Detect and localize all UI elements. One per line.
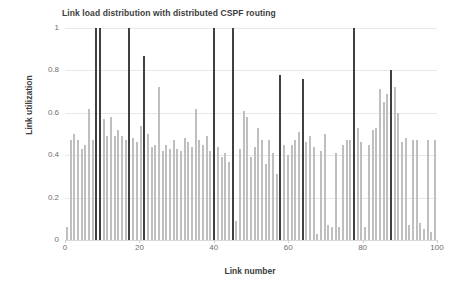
bar-highlight bbox=[95, 28, 97, 240]
bar bbox=[110, 117, 112, 240]
bar bbox=[338, 227, 340, 240]
bar bbox=[309, 136, 311, 240]
bar bbox=[136, 142, 138, 240]
bar bbox=[287, 155, 289, 240]
bar bbox=[294, 140, 296, 240]
x-tick-label: 100 bbox=[422, 243, 452, 252]
gridline bbox=[65, 70, 437, 71]
chart-figure: Link load distribution with distributed … bbox=[0, 0, 476, 289]
bar bbox=[335, 153, 337, 240]
bar bbox=[283, 145, 285, 240]
bar bbox=[360, 142, 362, 240]
x-tick-label: 80 bbox=[348, 243, 378, 252]
bar bbox=[243, 111, 245, 240]
bar bbox=[346, 140, 348, 240]
bar bbox=[383, 102, 385, 240]
x-tick-label: 60 bbox=[273, 243, 303, 252]
x-axis-title: Link number bbox=[62, 266, 438, 276]
bar bbox=[114, 136, 116, 240]
bar bbox=[368, 145, 370, 240]
bar bbox=[106, 136, 108, 240]
bar bbox=[386, 94, 388, 240]
bar bbox=[202, 145, 204, 240]
bar bbox=[66, 227, 68, 240]
bar bbox=[412, 140, 414, 240]
bar bbox=[81, 149, 83, 240]
bar bbox=[173, 140, 175, 240]
bar bbox=[434, 140, 436, 240]
x-axis-tick-labels: 020406080100 bbox=[65, 243, 437, 257]
bar bbox=[180, 151, 182, 240]
bar bbox=[324, 134, 326, 240]
bar bbox=[187, 142, 189, 240]
bar-highlight bbox=[128, 28, 130, 240]
bar bbox=[73, 134, 75, 240]
y-tick-label: 0.8 bbox=[33, 65, 59, 74]
x-tick-label: 0 bbox=[50, 243, 80, 252]
bar bbox=[77, 140, 79, 240]
bar-highlight bbox=[390, 70, 392, 240]
bar bbox=[416, 140, 418, 240]
bar bbox=[195, 109, 197, 240]
bar bbox=[419, 223, 421, 240]
bar bbox=[176, 149, 178, 240]
bar bbox=[272, 153, 274, 240]
bar bbox=[265, 164, 267, 240]
bar bbox=[209, 151, 211, 240]
bar bbox=[121, 136, 123, 240]
gridline bbox=[65, 113, 437, 114]
plot-area bbox=[65, 28, 437, 240]
bar bbox=[405, 138, 407, 240]
bar bbox=[184, 138, 186, 240]
bar bbox=[140, 126, 142, 240]
bar bbox=[375, 128, 377, 240]
bar-highlight bbox=[232, 28, 234, 240]
chart-title: Link load distribution with distributed … bbox=[62, 8, 276, 18]
bar-highlight bbox=[213, 28, 215, 240]
bar bbox=[235, 221, 237, 240]
y-tick-label: 0.4 bbox=[33, 150, 59, 159]
bar bbox=[132, 138, 134, 240]
bar bbox=[276, 174, 278, 240]
bar-highlight bbox=[143, 56, 145, 240]
bar bbox=[320, 151, 322, 240]
bar bbox=[246, 117, 248, 240]
bar bbox=[239, 149, 241, 240]
bar bbox=[349, 140, 351, 240]
bar bbox=[158, 87, 160, 240]
bar bbox=[221, 157, 223, 240]
bar bbox=[165, 145, 167, 240]
bar bbox=[268, 140, 270, 240]
x-tick-label: 20 bbox=[124, 243, 154, 252]
bar bbox=[408, 225, 410, 240]
bar bbox=[401, 142, 403, 240]
bar bbox=[397, 113, 399, 240]
bar bbox=[117, 130, 119, 240]
y-tick-label: 0.2 bbox=[33, 193, 59, 202]
bar bbox=[88, 109, 90, 240]
bar bbox=[151, 147, 153, 240]
bar-highlight bbox=[279, 75, 281, 240]
bar bbox=[261, 140, 263, 240]
bar bbox=[427, 140, 429, 240]
bar bbox=[357, 128, 359, 240]
bar bbox=[154, 145, 156, 240]
bar bbox=[103, 119, 105, 240]
bar-highlight bbox=[353, 28, 355, 240]
bar bbox=[70, 140, 72, 240]
bar bbox=[305, 142, 307, 240]
bar bbox=[224, 153, 226, 240]
y-tick-label: 1 bbox=[33, 23, 59, 32]
bar bbox=[254, 147, 256, 240]
bar bbox=[430, 232, 432, 240]
bar bbox=[313, 147, 315, 240]
bar bbox=[198, 140, 200, 240]
bar-highlight bbox=[99, 28, 101, 240]
bar bbox=[342, 145, 344, 240]
bar bbox=[217, 147, 219, 240]
bar bbox=[291, 145, 293, 240]
y-axis-tick-labels: 00.20.40.60.81 bbox=[33, 28, 59, 240]
bar bbox=[331, 227, 333, 240]
bar bbox=[327, 225, 329, 240]
bar bbox=[250, 157, 252, 240]
